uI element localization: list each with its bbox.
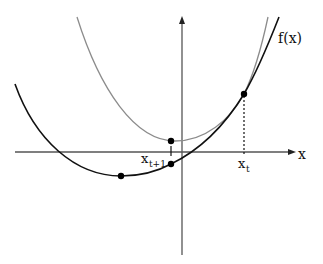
point-minimum-of-f [118, 173, 124, 179]
axes [15, 16, 296, 255]
x-axis-label: x [298, 146, 306, 162]
y-axis-arrow-icon [179, 16, 185, 24]
x-axis-arrow-icon [288, 149, 296, 155]
point-f-at-x-t1 [168, 161, 174, 167]
point-tangent-x-t [241, 91, 247, 97]
x-t-subscript: t [246, 164, 250, 174]
x-t1-label: x [141, 151, 149, 166]
x-t1-subscript: t+1 [149, 159, 166, 169]
point-surrogate-minimum [168, 138, 174, 144]
function-label: f(x) [278, 30, 302, 46]
surrogate-curve [77, 17, 268, 141]
x-t-label: x [238, 156, 246, 171]
diagram-canvas: f(x) x x t x t+1 [0, 0, 323, 264]
